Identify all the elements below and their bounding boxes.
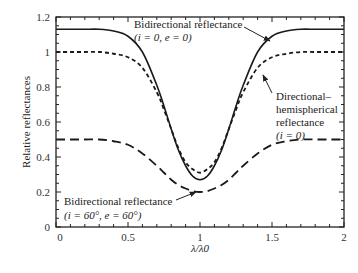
- annotation-bidirectional-60-line2: (i = 60°, e = 60°): [64, 209, 142, 222]
- series-line-2: [56, 139, 344, 192]
- x-tick-label: 1.5: [265, 231, 279, 243]
- annotation-dh-line4: (i = 0): [276, 129, 305, 142]
- annotation-arrow-3: [176, 192, 196, 200]
- annotation-arrow-1: [244, 27, 270, 41]
- annotation-dh-line1: Directional–: [276, 90, 331, 102]
- y-tick-label: 0.8: [36, 81, 50, 93]
- y-tick-label: 0.6: [36, 116, 50, 128]
- y-tick-label: 1: [45, 46, 51, 58]
- y-tick-label: 0.4: [36, 151, 50, 163]
- annotation-bidirectional-normal-line2: (i = 0, e = 0): [134, 31, 192, 44]
- x-tick-label: 0: [57, 231, 63, 243]
- x-tick-label: 2: [341, 231, 347, 243]
- x-tick-label: 0.5: [121, 231, 135, 243]
- annotation-dh-line2: hemispherical: [276, 103, 338, 115]
- annotation-bidirectional-normal-line1: Bidirectional reflectance: [134, 18, 243, 30]
- y-tick-label: 0.2: [36, 186, 50, 198]
- y-tick-label: 0: [45, 221, 51, 233]
- reflectance-chart: 00.511.52 00.20.40.60.811.2 Relative ref…: [0, 0, 358, 273]
- y-tick-labels: 00.20.40.60.811.2: [36, 11, 50, 233]
- annotation-arrow-2: [263, 75, 272, 93]
- x-axis-label: λ/λ0: [190, 242, 210, 254]
- annotation-bidirectional-60-line1: Bidirectional reflectance: [64, 195, 173, 207]
- y-axis-label: Relative reflectances: [20, 76, 32, 168]
- y-tick-label: 1.2: [36, 11, 50, 23]
- annotation-dh-line3: reflectance: [276, 116, 324, 128]
